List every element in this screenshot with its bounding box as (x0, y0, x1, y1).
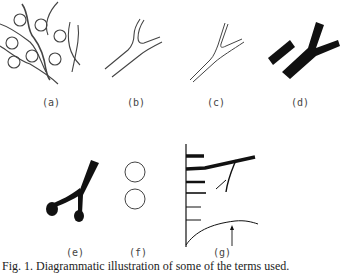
panel-e-label: (e) (66, 247, 84, 258)
panel-b-label: (b) (127, 97, 145, 108)
panel-b-drawing (105, 19, 162, 77)
panel-e-drawing (46, 160, 99, 222)
panel-d-label: (d) (291, 97, 309, 108)
panel-c-drawing (190, 23, 244, 82)
panel-f-drawing (125, 162, 145, 209)
panel-f-label: (f) (129, 247, 147, 258)
diagram-figure (0, 0, 344, 273)
panel-a-drawing (0, 2, 80, 84)
panel-c-label: (c) (207, 97, 225, 108)
panel-g-label: (g) (213, 247, 231, 258)
panel-a-label: (a) (42, 97, 60, 108)
panel-g-drawing (186, 144, 258, 247)
figure-caption: Fig. 1. Diagrammatic illustration of som… (2, 259, 289, 273)
panel-d-drawing (268, 22, 340, 79)
